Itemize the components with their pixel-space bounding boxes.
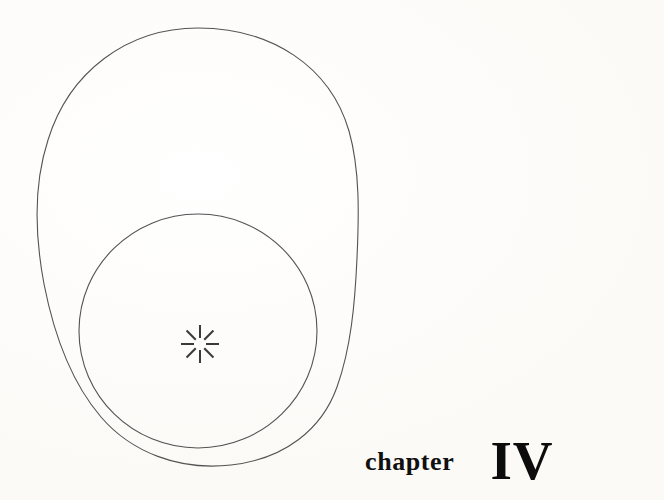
chapter-numeral: IV: [490, 433, 553, 488]
starburst-ray-ne: [204, 331, 213, 340]
circle-outline: [79, 214, 317, 448]
chapter-word: chapter: [365, 449, 454, 475]
eight-ray-starburst: [181, 325, 219, 363]
line-art-figure: [0, 0, 664, 500]
starburst-ray-nw: [187, 331, 196, 340]
starburst-ray-sw: [187, 348, 196, 357]
chapter-opener-page: chapter IV: [0, 0, 664, 500]
large-egg-outline: [37, 28, 358, 466]
starburst-ray-se: [204, 348, 213, 357]
chapter-label: chapter IV: [365, 424, 554, 479]
